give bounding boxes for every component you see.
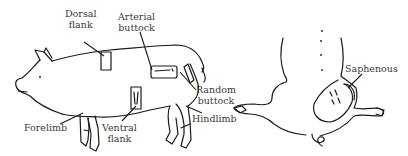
label-ventral-flank: Ventral flank <box>102 122 137 144</box>
label-arterial-buttock-line1: Arterial <box>118 11 155 22</box>
pig-sampling-sites-diagram: Dorsal flank Arterial buttock Random but… <box>0 0 408 156</box>
label-random-buttock: Random buttock <box>196 84 236 106</box>
label-saphenous-text: Saphenous <box>345 63 398 74</box>
label-dorsal-flank-line1: Dorsal <box>65 8 96 19</box>
rear-view-pig <box>234 30 384 146</box>
dorsal-flank-leader <box>84 42 104 56</box>
pig-eye-icon <box>39 76 41 78</box>
label-dorsal-flank: Dorsal flank <box>65 8 96 30</box>
label-arterial-buttock-line2: buttock <box>118 22 155 33</box>
label-arterial-buttock: Arterial buttock <box>118 11 155 33</box>
arterial-buttock-leader <box>140 32 152 70</box>
label-forelimb: Forelimb <box>24 122 67 133</box>
label-ventral-flank-line1: Ventral <box>102 122 137 133</box>
label-hindlimb-text: Hindlimb <box>192 113 237 124</box>
saphenous-leader <box>348 74 362 88</box>
label-random-buttock-line2: buttock <box>196 95 236 106</box>
label-ventral-flank-line2: flank <box>102 133 137 144</box>
label-dorsal-flank-line2: flank <box>65 19 96 30</box>
label-forelimb-text: Forelimb <box>24 122 67 133</box>
label-saphenous: Saphenous <box>345 63 398 74</box>
label-hindlimb: Hindlimb <box>192 113 237 124</box>
label-random-buttock-line1: Random <box>196 84 236 95</box>
